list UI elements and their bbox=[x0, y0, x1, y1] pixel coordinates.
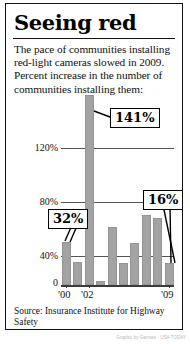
x-axis-baseline bbox=[61, 285, 174, 287]
bar-2006 bbox=[130, 243, 139, 285]
callout-16: 16% bbox=[143, 190, 183, 210]
bar-2005 bbox=[119, 263, 128, 285]
y-tick-label-120: 120% bbox=[24, 142, 58, 153]
chart-description: The pace of communities installing red-l… bbox=[14, 43, 174, 96]
bar-2004 bbox=[108, 227, 117, 285]
x-tick-2002 bbox=[89, 285, 90, 288]
gridline-120 bbox=[61, 148, 174, 149]
source-note: Source: Insurance Institute for Highway … bbox=[14, 306, 174, 327]
bar-2001 bbox=[73, 262, 82, 285]
y-tick-label-40: 40% bbox=[24, 250, 58, 261]
callout-141: 141% bbox=[110, 108, 160, 128]
bar-chart: 120% 80% 40% 0 '00 '02 '09 bbox=[6, 105, 182, 303]
bar-2007 bbox=[142, 215, 151, 285]
x-tick-label-09: '09 bbox=[161, 289, 173, 300]
x-tick-2000 bbox=[66, 285, 67, 288]
y-tick-label-0: 0 bbox=[24, 277, 58, 288]
infographic-panel: Seeing red The pace of communities insta… bbox=[5, 3, 183, 330]
graphic-credit: Graphic by Gannett · USA TODAY bbox=[62, 335, 186, 340]
callout-leader-16 bbox=[158, 205, 180, 267]
x-tick-label-02: '02 bbox=[81, 289, 93, 300]
bar-2000 bbox=[62, 242, 71, 285]
callout-32: 32% bbox=[48, 209, 88, 229]
title-divider bbox=[13, 38, 175, 39]
x-tick-2009 bbox=[169, 285, 170, 288]
y-tick-label-80: 80% bbox=[24, 196, 58, 207]
page-title: Seeing red bbox=[14, 12, 182, 34]
x-tick-label-00: '00 bbox=[58, 289, 70, 300]
